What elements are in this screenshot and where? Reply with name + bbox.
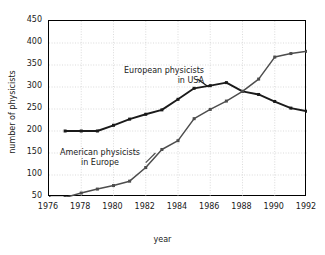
x-tick-label: 1982 [131,203,159,211]
series-annotation-european-line1: European physicists [124,66,204,75]
x-tick-label: 1990 [260,203,288,211]
y-tick-label: 200 [16,126,42,134]
x-tick-label: 1988 [228,203,256,211]
y-tick-label: 400 [16,38,42,46]
chart-figure: 45040035030025020015010050 1976197819801… [0,0,325,255]
series-european [64,81,307,132]
x-tick-label: 1984 [163,203,191,211]
y-tick-label: 300 [16,82,42,90]
x-tick-label: 1976 [34,203,62,211]
y-tick-label: 250 [16,104,42,112]
x-axis-title: year [0,236,325,244]
series-annotation-american: American physicists in Europe [60,148,140,168]
x-tick-label: 1978 [66,203,94,211]
y-axis-title: number of physicists [9,62,17,162]
annotation-leaders [146,79,209,163]
x-tick-label: 1980 [99,203,127,211]
y-tick-label: 50 [16,192,42,200]
series-annotation-european-line2: in USA [124,76,204,86]
x-tick-label: 1986 [195,203,223,211]
y-tick-label: 350 [16,60,42,68]
y-tick-label: 450 [16,16,42,24]
y-tick-label: 150 [16,148,42,156]
series-annotation-american-line2: in Europe [60,158,140,168]
grid-and-series-layer [49,21,307,197]
x-tick-label: 1992 [292,203,320,211]
plot-area [48,20,306,196]
y-tick-label: 100 [16,170,42,178]
series-annotation-american-line1: American physicists [60,148,140,157]
series-annotation-european: European physicists in USA [124,66,204,86]
